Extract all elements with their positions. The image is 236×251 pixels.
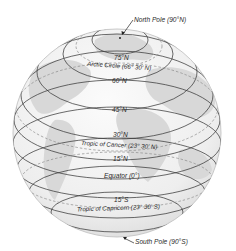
- south-pole-label: South Pole (90°S): [135, 238, 188, 246]
- lat-15s-label: 15°S: [114, 196, 129, 203]
- globe-diagram: North Pole (90°N) 75°N Arctic Circle (66…: [0, 0, 236, 251]
- lat-75n-label: 75°N: [114, 54, 129, 61]
- lat-15n-label: 15°N: [113, 155, 128, 162]
- north-pole-dot: [119, 37, 121, 39]
- lat-45n-label: 45°N: [112, 106, 127, 113]
- lat-30n-label: 30°N: [113, 131, 128, 138]
- equator-label: Equator (0°): [104, 172, 140, 180]
- north-pole-label: North Pole (90°N): [134, 16, 186, 24]
- lat-60n-label: 60°N: [112, 77, 127, 84]
